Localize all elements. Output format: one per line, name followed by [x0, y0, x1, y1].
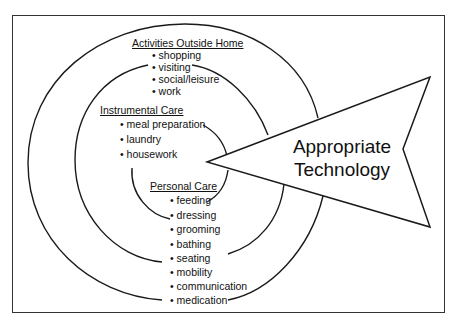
list-item: dressing — [170, 209, 216, 222]
list-item: seating — [170, 252, 210, 265]
list-item: grooming — [170, 223, 220, 236]
ring-heading-personal-care: Personal Care — [150, 180, 217, 193]
list-item: housework — [120, 148, 177, 161]
list-item: bathing — [170, 238, 211, 251]
middle-ring-arc — [75, 65, 162, 262]
arrow-label-line1: Appropriate — [282, 135, 402, 158]
list-item: medication — [170, 294, 227, 307]
ring-heading-instrumental-care: Instrumental Care — [100, 104, 183, 117]
inner-ring-left-arc — [132, 168, 170, 219]
inner-ring-upper-arc — [203, 125, 227, 156]
arrow-label-line2: Technology — [282, 158, 402, 181]
list-item: communication — [170, 280, 247, 293]
list-item: mobility — [170, 266, 212, 279]
list-item: work — [152, 85, 181, 98]
list-item: feeding — [170, 194, 211, 207]
middle-ring-lower-arc — [228, 184, 284, 254]
list-item: laundry — [120, 133, 161, 146]
list-item: meal preparation — [120, 118, 205, 131]
